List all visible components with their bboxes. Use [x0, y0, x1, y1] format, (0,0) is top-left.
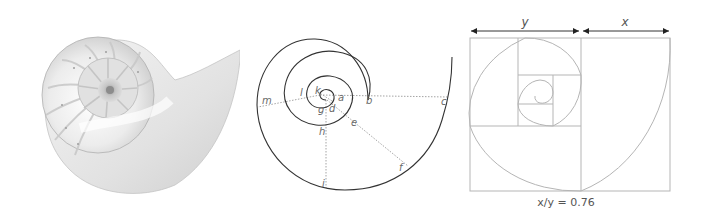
golden-rectangle-diagram: y x x/y = 0.76 — [460, 0, 706, 218]
golden-spiral-curve — [469, 38, 670, 191]
label-c: c — [441, 96, 447, 107]
ratio-caption: x/y = 0.76 — [537, 196, 594, 209]
golden-squares — [470, 38, 670, 191]
label-f: f — [399, 162, 404, 173]
label-g: g — [318, 104, 324, 115]
label-i: i — [322, 178, 325, 189]
golden-rectangle-graphic: y x x/y = 0.76 — [460, 0, 706, 218]
label-b: b — [366, 95, 372, 106]
nautilus-shell-graphic — [0, 0, 240, 218]
x-label: x — [620, 15, 629, 29]
spiral-graphic: m l k a b c g d e h f i — [230, 0, 460, 218]
measurement-lines — [258, 92, 448, 188]
label-l: l — [300, 87, 303, 98]
nautilus-shell-image — [0, 0, 240, 218]
label-a: a — [338, 92, 344, 103]
y-label: y — [520, 15, 529, 29]
label-e: e — [351, 117, 357, 128]
label-h: h — [319, 126, 325, 137]
label-d: d — [329, 103, 336, 114]
spiral-measurement-diagram: m l k a b c g d e h f i — [230, 0, 460, 218]
label-m: m — [262, 95, 272, 106]
